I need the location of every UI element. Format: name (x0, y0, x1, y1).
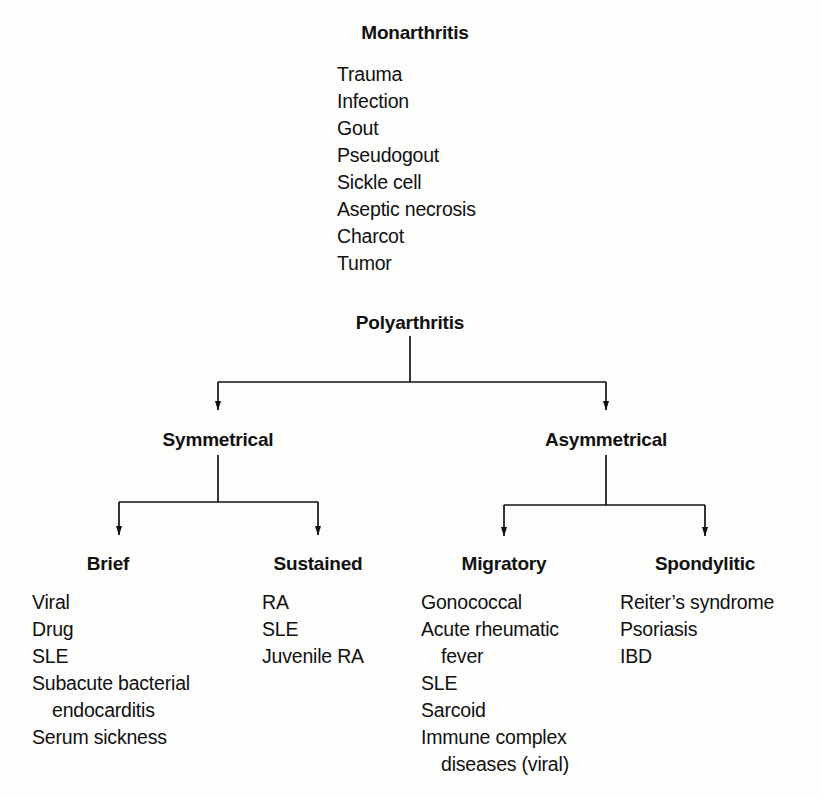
list-item: IBD (620, 643, 774, 670)
brief-title: Brief (87, 553, 129, 575)
migratory-list: Gonococcal Acute rheumatic fever SLE Sar… (421, 589, 569, 778)
asymmetrical-title: Asymmetrical (545, 429, 667, 451)
list-item: SLE (32, 643, 190, 670)
list-item: Infection (337, 88, 476, 115)
brief-list: Viral Drug SLE Subacute bacterial endoca… (32, 589, 190, 751)
list-item: Charcot (337, 223, 476, 250)
list-item-continuation: fever (421, 643, 569, 670)
arthritis-classification-diagram: Monarthritis Trauma Infection Gout Pseud… (0, 0, 822, 798)
list-item: Immune complex (421, 724, 569, 751)
list-item: Tumor (337, 250, 476, 277)
list-item: Psoriasis (620, 616, 774, 643)
list-item: Aseptic necrosis (337, 196, 476, 223)
list-item: SLE (262, 616, 364, 643)
polyarthritis-title: Polyarthritis (356, 312, 464, 334)
list-item: Pseudogout (337, 142, 476, 169)
list-item: Sickle cell (337, 169, 476, 196)
list-item: Viral (32, 589, 190, 616)
list-item-continuation: endocarditis (32, 697, 190, 724)
sustained-list: RA SLE Juvenile RA (262, 589, 364, 670)
symmetrical-title: Symmetrical (163, 429, 274, 451)
list-item: Gout (337, 115, 476, 142)
monarthritis-list: Trauma Infection Gout Pseudogout Sickle … (337, 61, 476, 277)
migratory-title: Migratory (462, 553, 547, 575)
spondylitic-title: Spondylitic (655, 553, 755, 575)
list-item: Reiter’s syndrome (620, 589, 774, 616)
list-item: RA (262, 589, 364, 616)
list-item: Juvenile RA (262, 643, 364, 670)
list-item: Acute rheumatic (421, 616, 569, 643)
list-item: Sarcoid (421, 697, 569, 724)
list-item: Gonococcal (421, 589, 569, 616)
list-item: Serum sickness (32, 724, 190, 751)
list-item: Trauma (337, 61, 476, 88)
spondylitic-list: Reiter’s syndrome Psoriasis IBD (620, 589, 774, 670)
list-item-continuation: diseases (viral) (421, 751, 569, 778)
sustained-title: Sustained (274, 553, 363, 575)
list-item: SLE (421, 670, 569, 697)
list-item: Subacute bacterial (32, 670, 190, 697)
monarthritis-title: Monarthritis (361, 22, 468, 44)
list-item: Drug (32, 616, 190, 643)
